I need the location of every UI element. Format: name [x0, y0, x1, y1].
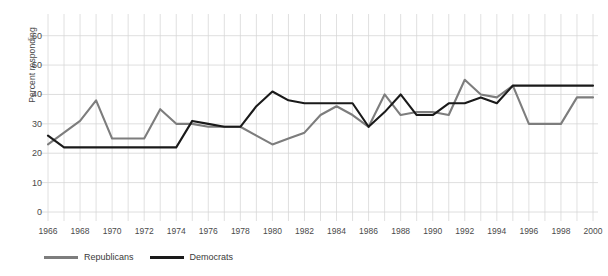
y-tick-label: 20: [16, 148, 42, 158]
x-tick-label: 1998: [551, 226, 570, 236]
x-tick-label: 1986: [359, 226, 378, 236]
line-chart: Percent responding 0102030405060 1966196…: [0, 0, 608, 276]
legend-swatch-icon: [150, 256, 184, 259]
y-tick-label: 0: [16, 207, 42, 217]
legend-label: Republicans: [84, 252, 134, 262]
x-tick-label: 1974: [167, 226, 186, 236]
x-tick-label: 1978: [231, 226, 250, 236]
y-tick-label: 10: [16, 178, 42, 188]
y-tick-label: 30: [16, 119, 42, 129]
x-tick-label: 1968: [71, 226, 90, 236]
chart-legend: RepublicansDemocrats: [44, 252, 233, 262]
y-tick-label: 40: [16, 89, 42, 99]
x-tick-label: 1992: [455, 226, 474, 236]
legend-item[interactable]: Democrats: [150, 252, 234, 262]
x-tick-label: 1990: [423, 226, 442, 236]
x-tick-label: 1988: [391, 226, 410, 236]
y-axis-tick-labels: 0102030405060: [12, 0, 42, 276]
x-tick-label: 1994: [487, 226, 506, 236]
legend-item[interactable]: Republicans: [44, 252, 134, 262]
legend-label: Democrats: [190, 252, 234, 262]
x-tick-label: 1970: [103, 226, 122, 236]
x-tick-label: 1984: [327, 226, 346, 236]
legend-swatch-icon: [44, 256, 78, 259]
y-tick-label: 50: [16, 60, 42, 70]
y-tick-label: 60: [16, 31, 42, 41]
x-tick-label: 1980: [263, 226, 282, 236]
x-tick-label: 1976: [199, 226, 218, 236]
x-tick-label: 1966: [39, 226, 58, 236]
x-tick-label: 1972: [135, 226, 154, 236]
x-tick-label: 1982: [295, 226, 314, 236]
x-tick-label: 1996: [519, 226, 538, 236]
x-tick-label: 2000: [584, 226, 603, 236]
